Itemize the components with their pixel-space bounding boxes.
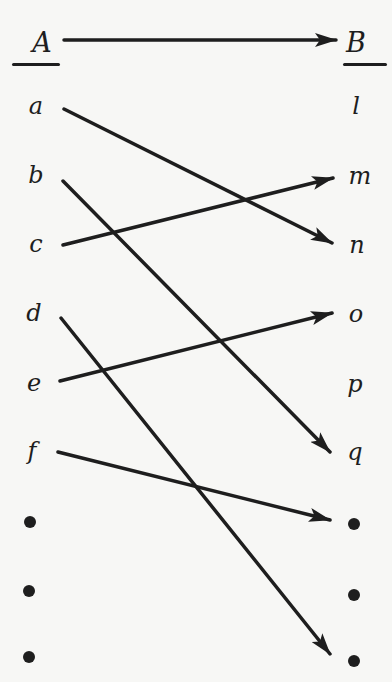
set-a-title: A xyxy=(32,29,52,56)
set-a-element-dot-2 xyxy=(23,585,35,597)
set-b-element-o: o xyxy=(349,302,363,326)
set-b-title: B xyxy=(346,29,366,56)
set-b-underline xyxy=(343,63,387,66)
set-b-element-n: n xyxy=(349,233,364,257)
set-a-element-dot-3 xyxy=(23,651,35,663)
set-a-element-e: e xyxy=(27,371,41,395)
set-a-element-dot-1 xyxy=(24,516,36,528)
arrows-layer xyxy=(0,0,392,682)
set-b-element-p: p xyxy=(347,372,362,396)
set-a-element-b: b xyxy=(28,163,43,187)
set-a-element-d: d xyxy=(26,301,41,325)
set-b-element-dot-3 xyxy=(348,655,360,667)
set-a-element-f: f xyxy=(28,439,37,463)
set-b-element-m: m xyxy=(349,164,372,188)
set-b-element-q: q xyxy=(347,440,362,464)
edge-e-to-o xyxy=(60,313,332,381)
set-b-element-dot-1 xyxy=(348,518,360,530)
set-a-element-c: c xyxy=(29,232,42,256)
set-a-underline xyxy=(12,63,60,66)
set-b-element-l: l xyxy=(352,94,360,118)
edge-f-to-dot7 xyxy=(58,452,330,520)
set-b-element-dot-2 xyxy=(348,589,360,601)
function-mapping-diagram: A B a b c d e f l m n o p q xyxy=(0,0,392,682)
set-a-element-a: a xyxy=(29,94,43,118)
edge-c-to-m xyxy=(63,178,333,245)
